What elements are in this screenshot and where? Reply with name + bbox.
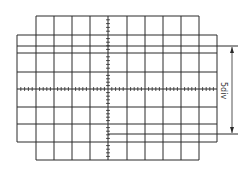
arrow-down-icon [230, 127, 234, 133]
center-axis-ticks [21, 20, 214, 157]
graticule-grid [0, 0, 248, 172]
arrow-up-icon [230, 47, 234, 53]
oscilloscope-diagram: 5div [0, 0, 248, 172]
measurement-label: 5div [215, 82, 231, 98]
